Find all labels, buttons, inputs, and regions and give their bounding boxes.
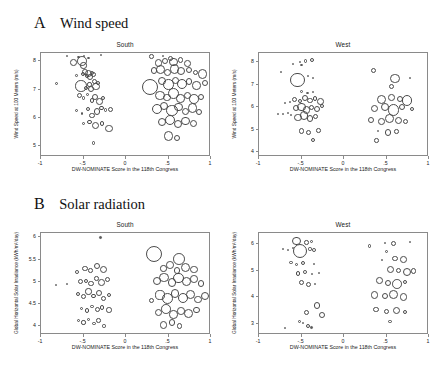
data-bubble [196,109,203,116]
x-tick-label: -.5 [79,160,85,166]
data-bubble [277,113,279,115]
y-axis-title: Global Horizontal Solar Irradiance (kWh/… [14,232,19,334]
x-tick-label: -1 [256,338,261,344]
data-bubble [88,281,94,287]
y-tick-label: 4 [238,148,254,154]
data-bubble [400,293,408,301]
data-bubble [284,102,286,104]
data-bubble [280,71,282,73]
data-bubble [90,305,94,309]
data-bubble [101,96,105,100]
data-bubble [80,62,86,68]
data-bubble [299,280,304,285]
data-bubble [86,93,89,96]
data-bubble [381,259,383,261]
x-tick-label: .5 [165,338,169,344]
y-tick-label: 5 [20,278,36,284]
data-bubble [106,307,111,312]
data-bubble [87,120,91,124]
data-bubble [371,68,376,73]
y-tick [38,145,41,146]
x-tick-label: -1 [38,338,43,344]
data-bubble [390,74,399,83]
x-tick-label: 0 [124,160,127,166]
data-bubble [149,298,154,303]
y-tick-label: 6 [238,103,254,109]
data-bubble [77,93,82,98]
data-bubble [160,321,168,329]
data-bubble [77,319,80,322]
data-bubble [95,307,100,312]
data-bubble [385,129,391,135]
data-bubble [293,244,307,258]
data-bubble [300,64,302,66]
data-bubble [92,122,99,129]
x-tick-label: 1 [209,338,212,344]
x-tick [386,334,387,337]
data-bubble [313,263,315,265]
x-tick-label: -1 [38,160,43,166]
data-bubble [80,307,83,310]
data-bubble [312,77,314,79]
x-axis-title: DW-NOMINATE Score in the 118th Congress [258,166,428,172]
data-bubble [198,69,207,78]
x-tick-label: .5 [383,338,387,344]
panel-b-header: B Solar radiation [34,195,145,213]
data-bubble [164,131,174,141]
subplot-title: South [40,221,210,228]
y-tick [256,84,259,85]
data-bubble [94,263,100,269]
y-tick [256,296,259,297]
subplot-title: South [40,41,210,48]
data-bubble [371,105,378,112]
y-tick [38,325,41,326]
subplot-title: West [258,221,428,228]
data-bubble [174,135,181,142]
data-bubble [396,268,401,273]
data-bubble [316,128,321,133]
data-bubble [101,296,106,301]
x-tick [168,156,169,159]
x-tick [343,334,344,337]
data-bubble [310,58,314,62]
y-tick [256,270,259,271]
x-tick-label: .5 [165,160,169,166]
data-bubble [70,59,77,66]
x-tick-label: .5 [383,160,387,166]
data-bubble [104,108,108,112]
x-tick [428,156,429,159]
data-bubble [162,58,168,64]
data-bubble [75,74,78,77]
data-bubble [307,98,312,103]
data-bubble [301,261,305,265]
data-bubble [393,307,400,314]
data-bubble [91,72,96,77]
x-tick-label: 1 [427,338,430,344]
data-bubble [108,107,113,112]
data-bubble [385,250,388,253]
x-tick-label: 0 [124,338,127,344]
data-bubble [292,247,294,249]
y-axis-title: Wind Speed at 100 Meters (m/s) [14,52,19,156]
data-bubble [373,307,379,313]
data-bubble [105,125,113,133]
subplot-title: West [258,41,428,48]
data-bubble [55,82,58,85]
y-tick-label: 6 [20,114,36,120]
data-bubble [190,120,197,127]
y-tick-label: 5.5 [20,256,36,262]
x-tick [210,156,211,159]
x-tick [40,334,41,337]
data-bubble [192,81,200,89]
data-bubble [319,312,325,318]
panel-a-header: A Wind speed [34,14,128,32]
data-bubble [100,266,107,273]
data-bubble [371,291,379,299]
x-tick [301,334,302,337]
data-bubble [409,241,411,243]
data-bubble [81,112,84,115]
data-bubble [377,130,380,133]
data-bubble [392,279,402,289]
data-bubble [306,92,309,95]
data-bubble [295,263,298,266]
